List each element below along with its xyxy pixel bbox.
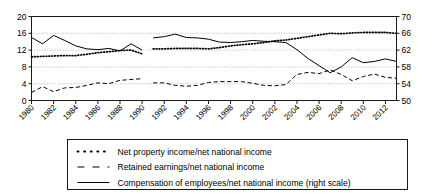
x-axis-tick-label: 2012	[371, 103, 390, 122]
x-axis-tick-label: 1990	[128, 103, 147, 122]
y-axis-right-tick-label: 58	[402, 62, 412, 72]
x-axis-tick-label: 2008	[327, 103, 346, 122]
x-axis-tick-label: 2010	[349, 103, 368, 122]
y-axis-right: 505458626670	[397, 12, 412, 106]
y-axis-right-tick-label: 66	[402, 28, 412, 38]
x-axis-tick-label: 1994	[172, 103, 191, 122]
y-axis-left-tick-label: 12	[17, 45, 27, 55]
chart-figure: 048121620 505458626670 19801982198419861…	[0, 0, 440, 195]
plot-frame	[32, 17, 397, 101]
legend-label: Compensation of employees/net national i…	[118, 178, 351, 188]
chart-legend: Net property income/net national incomeR…	[68, 140, 408, 190]
series-2	[32, 70, 397, 93]
x-axis-tick-label: 1984	[61, 103, 80, 122]
gridlines	[32, 17, 397, 84]
x-axis-tick-label: 2000	[238, 103, 257, 122]
y-axis-left: 048121620	[17, 12, 31, 106]
x-axis-tick-label: 1992	[150, 103, 169, 122]
legend-label: Net property income/net national income	[118, 147, 273, 157]
legend-item: Compensation of employees/net national i…	[78, 178, 351, 188]
x-axis-tick-label: 2002	[260, 103, 279, 122]
x-axis-tick-label: 1996	[194, 103, 213, 122]
y-axis-left-tick-label: 0	[22, 96, 27, 106]
legend-item: Net property income/net national income	[78, 147, 273, 157]
y-axis-left-tick-label: 8	[22, 62, 27, 72]
y-axis-right-tick-label: 54	[402, 79, 412, 89]
y-axis-left-tick-label: 20	[17, 12, 27, 22]
series-1	[32, 32, 397, 56]
x-axis-tick-label: 1988	[105, 103, 124, 122]
legend-item: Retained earnings/net national income	[78, 162, 265, 172]
y-axis-right-tick-label: 62	[402, 45, 412, 55]
x-axis-tick-label: 1982	[39, 103, 58, 122]
x-axis-tick-label: 1986	[83, 103, 102, 122]
x-axis-tick-label: 2006	[305, 103, 324, 122]
y-axis-left-tick-label: 4	[22, 79, 27, 89]
x-axis-tick-label: 1980	[17, 103, 36, 122]
x-axis-tick-label: 2004	[282, 103, 301, 122]
y-axis-right-tick-label: 70	[402, 12, 412, 22]
x-axis-tick-label: 1998	[216, 103, 235, 122]
line-chart: 048121620 505458626670 19801982198419861…	[0, 0, 440, 195]
x-axis: 1980198219841986198819901992199419961998…	[17, 101, 390, 122]
y-axis-left-tick-label: 16	[17, 28, 27, 38]
y-axis-right-tick-label: 50	[402, 96, 412, 106]
legend-label: Retained earnings/net national income	[118, 162, 265, 172]
